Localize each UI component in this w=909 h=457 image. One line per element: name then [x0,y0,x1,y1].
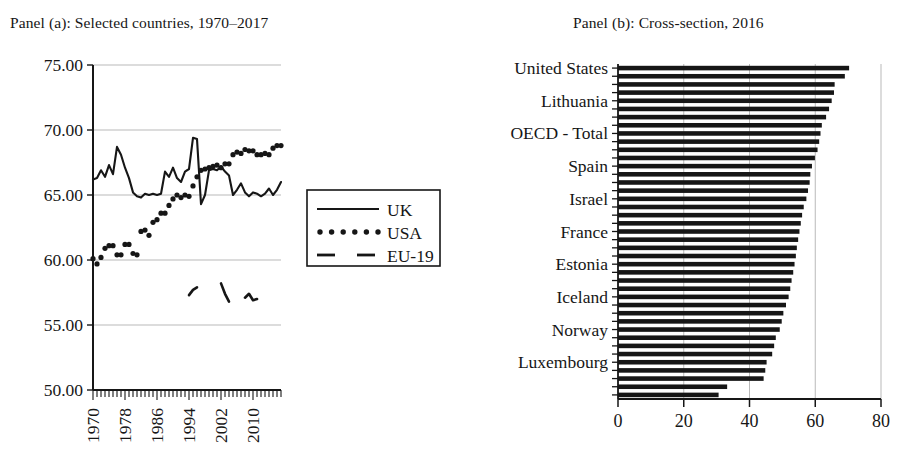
bar [618,213,802,218]
bar [618,180,810,185]
panel-a-ytick-label: 75.00 [44,55,84,75]
panel-a-xtick-label: 1970 [83,408,103,443]
bar [618,376,764,381]
bar [618,303,786,308]
panel-b-category-label: Luxembourg [518,352,608,372]
panel-a-xtick-label: 1994 [179,408,199,443]
panel-a-ytick-label: 55.00 [44,315,84,335]
bar [618,368,765,373]
bar [618,98,832,103]
bar [618,262,795,267]
legend-label-usa: USA [387,223,422,243]
panel-b-category-label: Lithuania [541,91,608,111]
bar [618,172,810,177]
panel-a-xtick-label: 1986 [147,408,167,443]
panel-a-ytick-label: 70.00 [44,120,84,140]
bar [618,90,834,95]
bar [618,74,845,79]
bar [618,107,829,112]
bar [618,131,821,136]
panel-b-xtick-label: 0 [614,411,623,431]
bar [618,246,797,251]
panel-b-category-label: Estonia [556,254,609,274]
bar [618,82,835,87]
panel-a-plot: 50.0055.0060.0065.0070.0075.001970197819… [0,0,455,457]
bar [618,278,792,283]
bar [618,352,772,357]
panel-b-bars [618,66,849,397]
legend-label-uk: UK [387,200,413,220]
bar [618,115,826,120]
bar [618,205,804,210]
bar [618,139,819,144]
panel-b-category-label: Norway [552,320,609,340]
panel-b-xtick-label: 40 [741,411,759,431]
bar [618,311,783,316]
bar [618,360,767,365]
bar [618,393,719,398]
bar [618,286,790,291]
bar [618,229,799,234]
panel-a-xtick-label: 2002 [211,408,231,443]
panel-b-xtick-label: 20 [675,411,693,431]
panel-b-category-label: France [560,222,608,242]
figure-two-panels: Panel (a): Selected countries, 1970–2017… [0,0,909,457]
bar [618,254,796,259]
panel-b-category-label: Israel [569,189,608,209]
panel-b: Panel (b): Cross-section, 2016 United St… [455,0,909,457]
panel-a-ytick-label: 60.00 [44,250,84,270]
bar [618,221,801,226]
panel-b-xtick-label: 80 [872,411,890,431]
bar [618,327,780,332]
bar [618,123,822,128]
series-dashes-eu19 [189,283,257,301]
panel-a-ytick-label: 65.00 [44,185,84,205]
panel-b-category-label: Iceland [557,287,609,307]
panel-b-category-label: United States [514,58,608,78]
bar [618,270,793,275]
panel-b-xtick-label: 60 [806,411,824,431]
bar [618,237,798,242]
panel-b-category-label: Spain [568,156,608,176]
panel-a-ytick-label: 50.00 [44,380,84,400]
bar [618,66,849,71]
panel-a: Panel (a): Selected countries, 1970–2017… [0,0,455,457]
bar [618,384,727,389]
bar [618,188,808,193]
legend-label-eu-19: EU-19 [387,246,434,266]
panel-a-legend: UKUSAEU-19 [307,190,440,266]
bar [618,156,815,161]
bar [618,164,812,169]
series-dots-usa [90,143,283,267]
bar [618,344,774,349]
panel-a-xtick-label: 2010 [243,408,263,443]
panel-b-plot: United StatesLithuaniaOECD - TotalSpainI… [455,0,909,457]
panel-a-xtick-label: 1978 [115,408,135,443]
panel-b-category-label: OECD - Total [510,123,608,143]
bar [618,148,818,153]
bar [618,335,776,340]
bar [618,319,782,324]
bar [618,197,806,202]
bar [618,295,789,300]
